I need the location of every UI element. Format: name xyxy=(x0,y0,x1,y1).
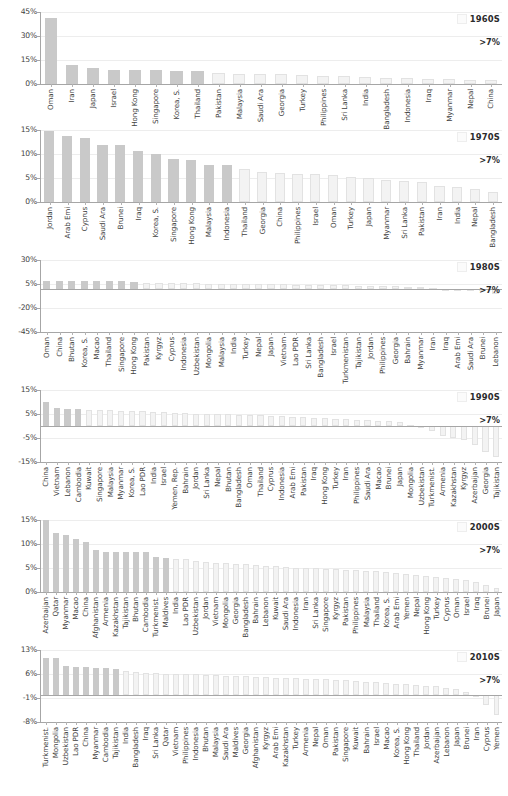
bar-cell[interactable] xyxy=(261,520,271,592)
bar-cell[interactable] xyxy=(125,12,146,84)
bar-cell[interactable] xyxy=(412,520,422,592)
bar-cell[interactable] xyxy=(101,520,111,592)
bar-cell[interactable] xyxy=(51,520,61,592)
bar-cell[interactable] xyxy=(91,260,103,332)
bar-cell[interactable] xyxy=(104,12,125,84)
bar-cell[interactable] xyxy=(141,520,151,592)
bar-cell[interactable] xyxy=(390,260,402,332)
bar-cell[interactable] xyxy=(341,650,351,722)
bar-cell[interactable] xyxy=(51,650,61,722)
bar-cell[interactable] xyxy=(201,650,211,722)
bar-cell[interactable] xyxy=(422,650,432,722)
bar-cell[interactable] xyxy=(53,260,65,332)
bar-cell[interactable] xyxy=(271,650,281,722)
bar-cell[interactable] xyxy=(215,260,227,332)
bar-cell[interactable] xyxy=(442,520,452,592)
bar-cell[interactable] xyxy=(362,520,372,592)
bar-cell[interactable] xyxy=(351,650,361,722)
bar-cell[interactable] xyxy=(427,260,439,332)
bar-cell[interactable] xyxy=(442,650,452,722)
bar-cell[interactable] xyxy=(203,260,215,332)
bar-cell[interactable] xyxy=(183,130,201,202)
bar-cell[interactable] xyxy=(146,12,167,84)
bar-cell[interactable] xyxy=(341,520,351,592)
bar-cell[interactable] xyxy=(321,650,331,722)
bar-cell[interactable] xyxy=(191,650,201,722)
bar-cell[interactable] xyxy=(236,130,254,202)
bar-cell[interactable] xyxy=(181,520,191,592)
bar-cell[interactable] xyxy=(76,130,94,202)
bar-cell[interactable] xyxy=(121,650,131,722)
bar-cell[interactable] xyxy=(422,520,432,592)
bar-cell[interactable] xyxy=(41,260,53,332)
bar-cell[interactable] xyxy=(41,520,51,592)
bar-cell[interactable] xyxy=(271,12,292,84)
bar-cell[interactable] xyxy=(78,260,90,332)
bar-cell[interactable] xyxy=(59,130,77,202)
bar-cell[interactable] xyxy=(151,520,161,592)
bar-cell[interactable] xyxy=(397,12,418,84)
bar-cell[interactable] xyxy=(291,650,301,722)
bar-cell[interactable] xyxy=(81,520,91,592)
bar-cell[interactable] xyxy=(241,520,251,592)
bar-cell[interactable] xyxy=(165,130,183,202)
bar-cell[interactable] xyxy=(151,650,161,722)
bar-cell[interactable] xyxy=(130,130,148,202)
bar-cell[interactable] xyxy=(178,260,190,332)
bar-cell[interactable] xyxy=(327,260,339,332)
bar-cell[interactable] xyxy=(392,520,402,592)
bar-cell[interactable] xyxy=(342,130,360,202)
bar-cell[interactable] xyxy=(292,12,313,84)
bar-cell[interactable] xyxy=(272,130,290,202)
bar-cell[interactable] xyxy=(360,130,378,202)
bar-cell[interactable] xyxy=(301,520,311,592)
bar-cell[interactable] xyxy=(352,260,364,332)
bar-cell[interactable] xyxy=(331,520,341,592)
bar-cell[interactable] xyxy=(103,260,115,332)
bar-cell[interactable] xyxy=(71,650,81,722)
bar-cell[interactable] xyxy=(112,130,130,202)
bar-cell[interactable] xyxy=(91,520,101,592)
bar-cell[interactable] xyxy=(351,520,361,592)
bar-cell[interactable] xyxy=(402,520,412,592)
bar-cell[interactable] xyxy=(412,650,422,722)
bar-cell[interactable] xyxy=(211,650,221,722)
bar-cell[interactable] xyxy=(396,130,414,202)
bar-cell[interactable] xyxy=(128,260,140,332)
bar-cell[interactable] xyxy=(66,260,78,332)
bar-cell[interactable] xyxy=(141,650,151,722)
bar-cell[interactable] xyxy=(440,260,452,332)
bar-cell[interactable] xyxy=(111,650,121,722)
bar-cell[interactable] xyxy=(41,650,51,722)
bar-cell[interactable] xyxy=(167,12,188,84)
bar-cell[interactable] xyxy=(231,650,241,722)
bar-cell[interactable] xyxy=(392,650,402,722)
bar-cell[interactable] xyxy=(271,520,281,592)
bar-cell[interactable] xyxy=(231,520,241,592)
bar-cell[interactable] xyxy=(331,650,341,722)
bar-cell[interactable] xyxy=(378,130,396,202)
bar-cell[interactable] xyxy=(191,520,201,592)
bar-cell[interactable] xyxy=(131,520,141,592)
bar-cell[interactable] xyxy=(81,650,91,722)
bar-cell[interactable] xyxy=(240,260,252,332)
bar-cell[interactable] xyxy=(94,130,112,202)
bar-cell[interactable] xyxy=(251,520,261,592)
bar-cell[interactable] xyxy=(131,650,141,722)
bar-cell[interactable] xyxy=(261,650,271,722)
bar-cell[interactable] xyxy=(161,650,171,722)
bar-cell[interactable] xyxy=(61,650,71,722)
bar-cell[interactable] xyxy=(313,12,334,84)
bar-cell[interactable] xyxy=(251,12,272,84)
bar-cell[interactable] xyxy=(228,260,240,332)
bar-cell[interactable] xyxy=(355,12,376,84)
bar-cell[interactable] xyxy=(41,12,62,84)
bar-cell[interactable] xyxy=(141,260,153,332)
bar-cell[interactable] xyxy=(413,130,431,202)
bar-cell[interactable] xyxy=(432,520,442,592)
bar-cell[interactable] xyxy=(41,130,59,202)
bar-cell[interactable] xyxy=(171,650,181,722)
bar-cell[interactable] xyxy=(166,260,178,332)
bar-cell[interactable] xyxy=(303,260,315,332)
bar-cell[interactable] xyxy=(230,12,251,84)
